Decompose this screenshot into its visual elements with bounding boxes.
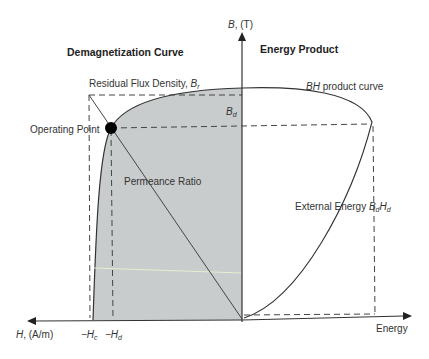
bdhd-horizontal-dashed [244,314,375,315]
b-axis-label: B, (T) [228,19,253,30]
energy-axis-arrow-icon [403,312,412,320]
operating-point-marker [105,122,117,134]
neg-hc-label: −Hc [81,329,98,341]
h-axis-label: H, (A/m) [16,329,53,340]
b-axis-arrow-icon [238,32,246,41]
permeance-ratio-label: Permeance Ratio [124,176,202,187]
residual-flux-label: Residual Flux Density, Br [89,78,200,90]
operating-point-label: Operating Point [30,124,100,135]
h-axis-arrow-icon [27,317,36,325]
energy-product-title: Energy Product [260,43,339,55]
demagnetization-diagram: Demagnetization Curve Energy Product B, … [0,0,429,359]
demagnetization-shaded-region [93,88,242,320]
demagnetization-curve-title: Demagnetization Curve [67,46,184,58]
bdhd-vertical-dashed [373,126,375,314]
external-energy-label: External Energy BdHd [295,201,392,213]
energy-axis-label: Energy [376,323,408,334]
neg-hd-label: −Hd [105,329,123,341]
bh-product-curve-label: BH product curve [306,81,384,92]
h-axis [34,320,242,321]
energy-axis [242,316,404,320]
